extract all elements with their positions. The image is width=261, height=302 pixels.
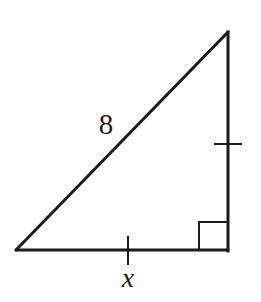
base-label: x (121, 262, 135, 293)
hypotenuse-label: 8 (99, 108, 114, 140)
background (0, 0, 261, 302)
right-triangle-diagram: 8 x (0, 0, 261, 302)
